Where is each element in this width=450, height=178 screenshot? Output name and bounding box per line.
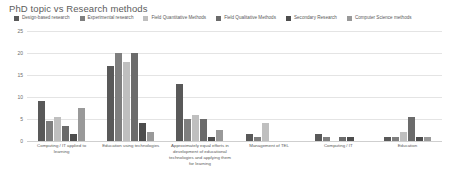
legend-swatch-icon — [143, 16, 148, 21]
bar[interactable] — [115, 53, 122, 141]
bar[interactable] — [78, 108, 85, 141]
plot-area: 2520151050 — [27, 31, 442, 141]
bar[interactable] — [131, 53, 138, 141]
legend-item[interactable]: Design-based research — [14, 16, 70, 21]
bar[interactable] — [62, 126, 69, 141]
bar[interactable] — [347, 137, 354, 141]
y-axis-tick-label: 5 — [20, 117, 23, 122]
y-axis-tick-label: 10 — [17, 95, 23, 100]
y-axis-tick-label: 0 — [20, 139, 23, 144]
bar[interactable] — [424, 137, 431, 141]
chart-container: PhD topic vs Research methods Design-bas… — [0, 0, 450, 178]
grid-line — [27, 141, 442, 142]
legend-item[interactable]: Field Qualitative Methods — [216, 16, 276, 21]
legend-label: Computer Science methods — [355, 16, 412, 21]
legend-label: Secondary Research — [294, 16, 337, 21]
bar-group — [96, 31, 165, 141]
x-axis-label: Education using technologies — [96, 143, 165, 167]
chart-title: PhD topic vs Research methods — [9, 3, 148, 14]
legend-label: Field Qualitative Methods — [224, 16, 276, 21]
bar-group — [27, 31, 96, 141]
y-axis-tick-label: 15 — [17, 73, 23, 78]
bar[interactable] — [176, 84, 183, 141]
bar[interactable] — [147, 132, 154, 141]
bar[interactable] — [54, 117, 61, 141]
x-axis-label: Approximately equal efforts in developme… — [165, 143, 234, 167]
legend-label: Experimental research — [88, 16, 134, 21]
y-axis-tick-label: 20 — [17, 51, 23, 56]
legend-swatch-icon — [286, 16, 291, 21]
x-axis-label: Management of TEL — [235, 143, 304, 167]
legend-swatch-icon — [347, 16, 352, 21]
bar[interactable] — [254, 137, 261, 141]
bar-group — [373, 31, 442, 141]
bar[interactable] — [208, 137, 215, 141]
bar[interactable] — [216, 130, 223, 141]
legend-item[interactable]: Field Quantitative Methods — [143, 16, 206, 21]
legend-swatch-icon — [14, 16, 19, 21]
bar[interactable] — [339, 137, 346, 141]
bar[interactable] — [323, 137, 330, 141]
bar[interactable] — [192, 115, 199, 141]
x-axis-label: Computing / IT applied to learning — [27, 143, 96, 167]
legend-item[interactable]: Computer Science methods — [347, 16, 412, 21]
legend-label: Field Quantitative Methods — [151, 16, 206, 21]
bar-group — [235, 31, 304, 141]
bar[interactable] — [384, 137, 391, 141]
legend-swatch-icon — [80, 16, 85, 21]
bar[interactable] — [38, 101, 45, 141]
bar[interactable] — [392, 137, 399, 141]
bar[interactable] — [107, 66, 114, 141]
legend-label: Design-based research — [22, 16, 70, 21]
bar[interactable] — [184, 119, 191, 141]
legend-item[interactable]: Secondary Research — [286, 16, 337, 21]
bar[interactable] — [46, 121, 53, 141]
legend-item[interactable]: Experimental research — [80, 16, 134, 21]
bar-group — [304, 31, 373, 141]
bar-groups — [27, 31, 442, 141]
bar[interactable] — [315, 134, 322, 141]
chart-legend: Design-based researchExperimental resear… — [14, 16, 412, 21]
x-axis-label: Education — [373, 143, 442, 167]
x-axis-labels: Computing / IT applied to learningEducat… — [27, 143, 442, 167]
x-axis-label: Computing / IT — [304, 143, 373, 167]
bar[interactable] — [70, 134, 77, 141]
y-axis-tick-label: 25 — [17, 29, 23, 34]
bar[interactable] — [408, 117, 415, 141]
bar[interactable] — [200, 119, 207, 141]
bar[interactable] — [139, 123, 146, 141]
legend-swatch-icon — [216, 16, 221, 21]
bar[interactable] — [400, 132, 407, 141]
bar[interactable] — [262, 123, 269, 141]
bar[interactable] — [416, 137, 423, 141]
bar-group — [165, 31, 234, 141]
bar[interactable] — [246, 134, 253, 141]
bar[interactable] — [123, 62, 130, 141]
